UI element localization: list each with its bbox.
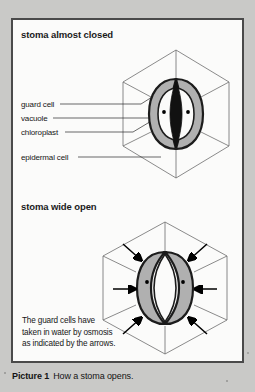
stoma-wide-open — [137, 252, 193, 324]
figure-panel: stoma almost closed — [11, 18, 244, 363]
stoma-almost-closed — [149, 79, 203, 149]
scan-speck — [226, 380, 228, 382]
chloroplast-dot-right-open — [181, 280, 185, 284]
figure-caption-text: How a stoma opens. — [53, 371, 133, 381]
label-epidermal-cell: epidermal cell — [21, 153, 68, 162]
osmosis-note-line-2: taken in water by osmosis — [22, 327, 144, 339]
figure-caption: Picture 1How a stoma opens. — [12, 371, 133, 381]
label-chloroplast: chloroplast — [21, 128, 58, 137]
chloroplast-dot-left-open — [145, 280, 149, 284]
figure-caption-label: Picture 1 — [12, 371, 49, 381]
section-heading-stoma-open: stoma wide open — [21, 201, 97, 212]
label-guard-cell: guard cell — [21, 100, 54, 109]
section-heading-stoma-closed: stoma almost closed — [21, 29, 113, 40]
chloroplast-dot-right — [186, 110, 190, 114]
chloroplast-dot-left — [162, 110, 166, 114]
osmosis-note-line-3: as indicated by the arrows. — [22, 338, 144, 350]
osmosis-note: The guard cells have taken in water by o… — [22, 315, 144, 350]
label-vacuole: vacuole — [21, 114, 48, 123]
scan-speck — [247, 352, 249, 354]
scan-speck — [4, 372, 6, 374]
osmosis-note-line-1: The guard cells have — [22, 315, 144, 327]
